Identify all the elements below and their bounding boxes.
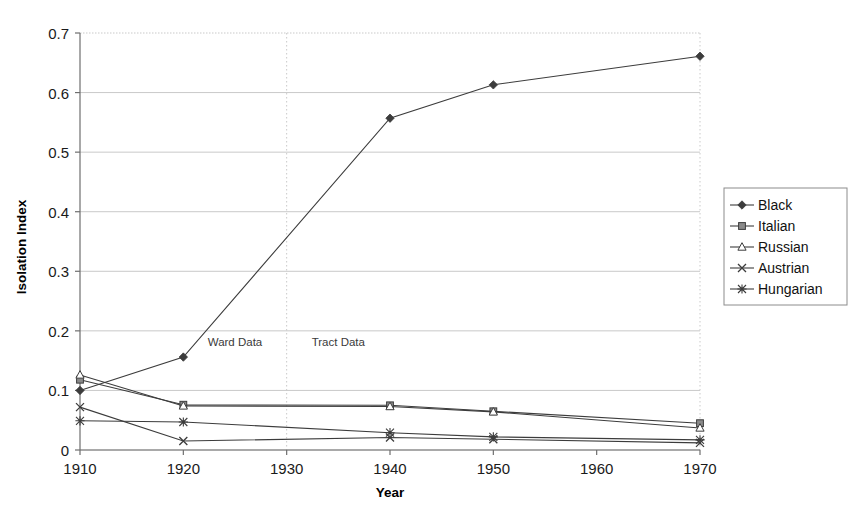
y-tick-label: 0.6 — [48, 85, 69, 102]
x-tick-label: 1910 — [63, 460, 96, 477]
x-tick-label: 1950 — [477, 460, 510, 477]
annotation-ward-data: Ward Data — [208, 336, 263, 348]
data-point-marker — [179, 417, 188, 426]
legend-label: Italian — [758, 218, 795, 234]
y-tick-label: 0.7 — [48, 25, 69, 42]
data-point-marker — [489, 432, 498, 441]
chart-container: 00.10.20.30.40.50.60.7 19101920193019401… — [0, 0, 861, 512]
annotation-tract-data: Tract Data — [312, 336, 366, 348]
legend-label: Black — [758, 197, 793, 213]
x-tick-label: 1930 — [270, 460, 303, 477]
isolation-index-line-chart: 00.10.20.30.40.50.60.7 19101920193019401… — [0, 0, 861, 512]
data-point-marker — [385, 428, 394, 437]
y-tick-label: 0.4 — [48, 204, 69, 221]
y-axis-title: Isolation Index — [14, 199, 29, 294]
legend-label: Austrian — [758, 260, 809, 276]
data-point-marker — [75, 416, 84, 425]
x-axis-title: Year — [376, 485, 405, 500]
y-tick-label: 0.1 — [48, 382, 69, 399]
legend-label: Hungarian — [758, 281, 823, 297]
y-tick-label: 0.2 — [48, 323, 69, 340]
y-tick-label: 0 — [61, 442, 69, 459]
x-tick-label: 1920 — [167, 460, 200, 477]
legend[interactable]: BlackItalianRussianAustrianHungarian — [724, 188, 847, 305]
y-tick-label: 0.5 — [48, 144, 69, 161]
data-point-marker — [695, 435, 704, 444]
x-tick-label: 1960 — [580, 460, 613, 477]
y-tick-label: 0.3 — [48, 263, 69, 280]
x-tick-label: 1940 — [373, 460, 406, 477]
legend-label: Russian — [758, 239, 809, 255]
data-point-marker — [739, 223, 746, 230]
x-tick-label: 1970 — [683, 460, 716, 477]
data-point-marker — [737, 284, 746, 293]
